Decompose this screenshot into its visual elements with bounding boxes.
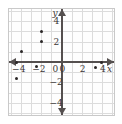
- y-tick-label: −4: [50, 99, 63, 108]
- x-axis-label: x: [107, 65, 112, 74]
- plot-area: −4−202442−2−40xy: [8, 8, 115, 116]
- x-tick-label: 4: [100, 65, 106, 74]
- scatter-plot-figure: −4−202442−2−40xy: [0, 0, 122, 124]
- y-axis-arrow-down: [58, 108, 66, 115]
- x-tick-label: 0: [60, 65, 66, 74]
- data-point: [15, 61, 18, 64]
- y-tick-label: 2: [54, 38, 60, 47]
- y-tick-label: −2: [50, 78, 63, 87]
- y-tick-label: 4: [54, 17, 60, 26]
- y-axis-arrow-up: [58, 9, 66, 16]
- origin-label: 0: [53, 65, 59, 74]
- data-point: [40, 40, 43, 43]
- data-point: [40, 30, 43, 33]
- y-axis-label: y: [53, 9, 58, 18]
- x-tick-label: −4: [12, 65, 25, 74]
- data-point: [35, 65, 38, 68]
- x-tick-label: 2: [80, 65, 86, 74]
- data-point: [20, 50, 23, 53]
- data-point: [94, 66, 97, 69]
- data-point: [15, 77, 18, 80]
